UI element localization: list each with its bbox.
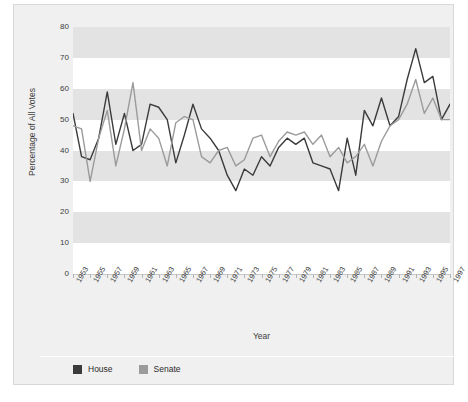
chart-legend: HouseSenate (73, 364, 207, 374)
x-axis-ticks: 1953195519571959196119631965196719691971… (73, 274, 450, 320)
y-axis-tick-label: 10 (60, 238, 69, 247)
y-axis-tick-labels: 01020304050607080 (44, 27, 69, 274)
legend-swatch-icon (73, 365, 82, 374)
x-axis-tick-mark (399, 274, 400, 278)
y-axis-tick-label: 60 (60, 84, 69, 93)
y-axis-tick-label: 80 (60, 22, 69, 31)
y-axis-tick-label: 0 (65, 269, 69, 278)
x-axis-tick-mark (296, 274, 297, 278)
legend-item-house[interactable]: House (73, 364, 113, 374)
y-axis-tick-label: 70 (60, 53, 69, 62)
figure-container: Percentage of All Votes 0102030405060708… (0, 0, 468, 402)
legend-label: Senate (154, 364, 181, 374)
x-axis-tick-mark (313, 274, 314, 278)
series-line-house (73, 49, 450, 191)
x-axis-tick-mark (433, 274, 434, 278)
cut-off-caption (0, 393, 468, 402)
legend-swatch-icon (139, 365, 148, 374)
legend-label: House (88, 364, 113, 374)
legend-divider (40, 356, 455, 357)
legend-item-senate[interactable]: Senate (139, 364, 181, 374)
chart-panel: Percentage of All Votes 0102030405060708… (13, 4, 454, 385)
y-axis-title: Percentage of All Votes (27, 72, 37, 192)
y-axis-tick-label: 20 (60, 207, 69, 216)
x-axis-tick-mark (416, 274, 417, 278)
x-axis-tick-mark (279, 274, 280, 278)
x-axis-tick-mark (159, 274, 160, 278)
y-axis-tick-label: 50 (60, 115, 69, 124)
series-line-senate (73, 79, 450, 181)
plot-area (73, 27, 450, 274)
x-axis-tick-mark (142, 274, 143, 278)
x-axis-tick-mark (262, 274, 263, 278)
y-axis-tick-label: 40 (60, 146, 69, 155)
x-axis-title: Year (73, 331, 450, 341)
y-axis-tick-label: 30 (60, 176, 69, 185)
x-axis-tick-label: 1997 (452, 266, 467, 284)
series-lines (73, 27, 450, 274)
x-axis-tick-mark (176, 274, 177, 278)
